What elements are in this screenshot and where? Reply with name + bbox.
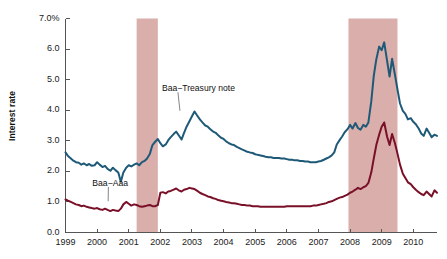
annotation-leader-line (178, 92, 180, 111)
shaded-recession-bands (137, 19, 398, 233)
line-chart-canvas (0, 0, 447, 259)
chart-figure: Interest rate 0.01.02.03.04.05.06.07.0% … (0, 0, 447, 259)
recession-2001 (137, 19, 158, 233)
